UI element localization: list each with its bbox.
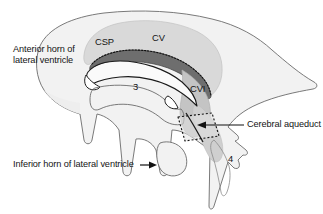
label-third-ventricle: 3 [133, 81, 138, 92]
label-fourth-ventricle: 4 [228, 153, 233, 164]
inferior-horn-shape [157, 142, 187, 176]
inferior-horn-arrowhead [149, 162, 157, 169]
label-csp: CSP [95, 36, 114, 47]
label-inferior-horn: Inferior horn of lateral ventricle [13, 159, 134, 170]
label-cerebral-aqueduct: Cerebral aqueduct [247, 119, 321, 130]
label-cvi: CVI [190, 83, 205, 94]
label-cv: CV [152, 32, 165, 43]
anatomical-diagram-figure: Anterior horn of lateral ventricle Infer… [0, 0, 323, 214]
cerebral-aqueduct-dotted-box [178, 113, 219, 141]
label-anterior-horn: Anterior horn of lateral ventricle [13, 44, 75, 66]
